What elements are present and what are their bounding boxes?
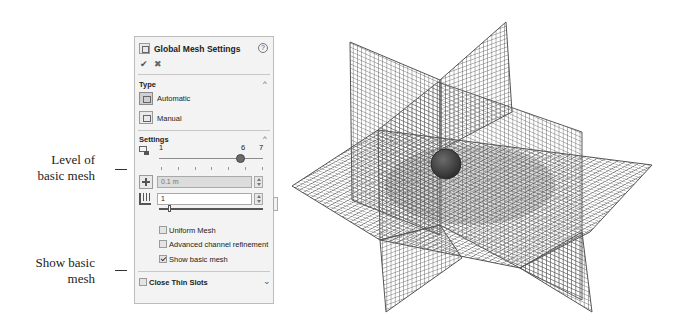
uniform-mesh-label[interactable]: Uniform Mesh [169, 226, 216, 235]
help-icon[interactable]: ? [258, 43, 268, 53]
callout-text-line: Show basic [20, 255, 95, 271]
callout-text-line: mesh [20, 271, 95, 287]
callout-level-of-basic-mesh: Level of basic mesh [20, 152, 95, 184]
callout-show-basic-mesh: Show basic mesh [20, 255, 95, 287]
type-option-automatic[interactable]: Automatic [157, 94, 190, 103]
close-thin-slots-checkbox[interactable] [139, 278, 147, 286]
type-section-label: Type [139, 80, 156, 89]
global-mesh-settings-panel: Global Mesh Settings ? ✔ ✖ Type ^ Automa… [134, 36, 274, 304]
slider-min-label: 1 [159, 143, 163, 152]
advanced-channel-refinement-label[interactable]: Advanced channel refinement [169, 240, 268, 249]
minimum-wall-thickness-field[interactable]: 1 [157, 193, 252, 205]
global-mesh-icon [139, 43, 150, 54]
minimum-wall-thickness-icon-bars [143, 193, 150, 201]
level-slider-thumb[interactable] [236, 154, 245, 163]
close-thin-slots-label[interactable]: Close Thin Slots [149, 278, 208, 287]
wall-thickness-slider-track[interactable] [159, 208, 263, 210]
slider-ticks [161, 167, 263, 170]
panel-title: Global Mesh Settings [154, 44, 240, 54]
callout-text-line: basic mesh [20, 168, 95, 184]
chevron-up-icon[interactable]: ^ [263, 79, 267, 88]
wall-thickness-slider-thumb[interactable] [168, 205, 171, 212]
show-basic-mesh-label[interactable]: Show basic mesh [169, 255, 228, 264]
slider-value-label: 6 [241, 143, 245, 152]
uniform-mesh-checkbox[interactable] [159, 226, 167, 234]
divider [138, 130, 270, 131]
automatic-mesh-icon[interactable] [139, 92, 153, 105]
callout-leader-line [115, 169, 127, 170]
divider [138, 74, 270, 75]
show-basic-mesh-checkbox[interactable] [159, 255, 167, 263]
ok-button[interactable]: ✔ [140, 59, 148, 69]
mesh-preview-viewport[interactable] [288, 15, 658, 315]
divider [138, 271, 270, 272]
type-option-manual[interactable]: Manual [157, 114, 182, 123]
manual-mesh-icon[interactable] [139, 111, 153, 124]
sphere-object[interactable] [431, 149, 461, 179]
cancel-button[interactable]: ✖ [154, 59, 162, 69]
minimum-wall-thickness-spinner[interactable] [254, 193, 263, 205]
level-slider-track[interactable] [159, 158, 263, 159]
minimum-gap-spinner[interactable] [254, 176, 263, 188]
level-of-mesh-icon-mark [144, 151, 149, 155]
panel-resize-handle[interactable] [273, 197, 278, 211]
settings-section-label: Settings [139, 135, 169, 144]
chevron-up-icon[interactable]: ^ [263, 134, 267, 143]
advanced-channel-refinement-checkbox[interactable] [159, 240, 167, 248]
chevron-down-icon[interactable]: ⌄ [263, 276, 271, 286]
minimum-gap-field[interactable]: 0.1 m [157, 176, 252, 188]
minimum-gap-icon [139, 175, 153, 189]
slider-max-label: 7 [259, 143, 263, 152]
mesh-refinement-shading [385, 145, 555, 225]
callout-text-line: Level of [20, 152, 95, 168]
callout-leader-line [115, 270, 127, 271]
